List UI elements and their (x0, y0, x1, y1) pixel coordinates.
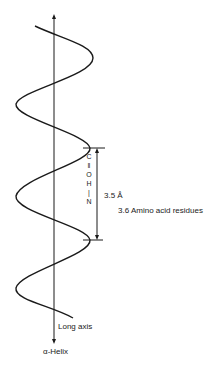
pitch-label: 3.5 Å (104, 191, 123, 200)
long-axis-label: Long axis (58, 322, 92, 331)
pitch-arrow-bottom-icon (95, 235, 99, 240)
hbond-atom-c: C (85, 152, 93, 161)
residues-label: 3.6 Amino acid residues (118, 206, 203, 215)
hbond-atom-n: N (85, 197, 93, 206)
figure-title: α-Helix (43, 347, 68, 356)
hbond-atom-h: H (85, 179, 93, 188)
hbond-atom-o: O (85, 170, 93, 179)
axis-arrow-top-icon (52, 14, 56, 19)
pitch-arrow-top-icon (95, 148, 99, 153)
hydrogen-bond-label: C ‖ O H | N (85, 152, 93, 206)
axis-arrow-bottom-icon (52, 339, 56, 344)
hbond-double-bond: ‖ (85, 161, 93, 170)
helix-drawing (0, 0, 222, 370)
alpha-helix-diagram: C ‖ O H | N 3.5 Å 3.6 Amino acid residue… (0, 0, 222, 370)
hbond-single-bond: | (85, 188, 93, 197)
